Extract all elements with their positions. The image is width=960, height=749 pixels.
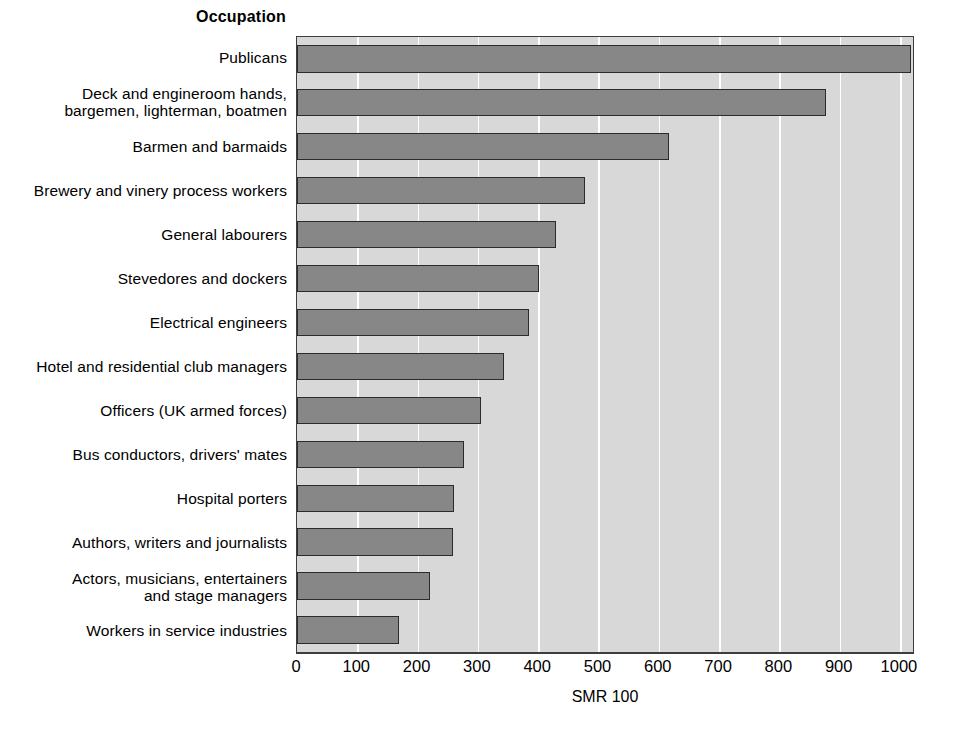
x-axis-tick-labels: 01002003004005006007008009001000 [296, 657, 914, 683]
bar [297, 353, 504, 380]
bar [297, 45, 911, 72]
category-label: General labourers [0, 212, 296, 256]
x-tick-label: 700 [704, 657, 732, 676]
x-axis-line [296, 652, 914, 654]
category-label: Actors, musicians, entertainers and stag… [0, 565, 296, 609]
bar-row [297, 37, 913, 81]
category-label: Brewery and vinery process workers [0, 168, 296, 212]
x-tick-label: 1000 [881, 657, 918, 676]
bar-row [297, 301, 913, 345]
bar-row [297, 344, 913, 388]
bar [297, 133, 669, 160]
category-label: Electrical engineers [0, 300, 296, 344]
bar [297, 397, 481, 424]
bar [297, 177, 585, 204]
bar [297, 616, 399, 643]
bar-series [297, 37, 913, 652]
bar-row [297, 257, 913, 301]
bar-row [297, 564, 913, 608]
category-label: Officers (UK armed forces) [0, 389, 296, 433]
x-tick-label: 0 [291, 657, 300, 676]
x-tick-label: 600 [644, 657, 672, 676]
bar-row [297, 213, 913, 257]
plot-area [296, 36, 914, 653]
bar [297, 265, 539, 292]
bar-row [297, 169, 913, 213]
bar-row [297, 125, 913, 169]
x-tick-label: 500 [584, 657, 612, 676]
category-label: Publicans [0, 36, 296, 80]
category-label: Bus conductors, drivers' mates [0, 433, 296, 477]
bar-row [297, 81, 913, 125]
bar [297, 572, 430, 599]
x-tick-label: 800 [765, 657, 793, 676]
x-tick-label: 400 [523, 657, 551, 676]
bar [297, 89, 826, 116]
x-tick-label: 100 [343, 657, 371, 676]
bar-row [297, 388, 913, 432]
x-axis-label: SMR 100 [296, 688, 914, 706]
bar-row [297, 520, 913, 564]
x-tick-label: 200 [403, 657, 431, 676]
category-label: Workers in service industries [0, 609, 296, 653]
bar-row [297, 432, 913, 476]
category-label: Stevedores and dockers [0, 256, 296, 300]
bar [297, 528, 453, 555]
category-axis-title: Occupation [0, 8, 296, 26]
x-tick-label: 900 [825, 657, 853, 676]
bar [297, 221, 556, 248]
bar-row [297, 476, 913, 520]
bar [297, 441, 464, 468]
category-label: Barmen and barmaids [0, 124, 296, 168]
bar [297, 485, 454, 512]
category-label: Deck and engineroom hands, bargemen, lig… [0, 80, 296, 124]
bar-row [297, 608, 913, 652]
chart-figure: Occupation PublicansDeck and engineroom … [0, 0, 960, 749]
bar [297, 309, 529, 336]
category-label-column: PublicansDeck and engineroom hands, barg… [0, 36, 296, 653]
x-tick-label: 300 [463, 657, 491, 676]
category-label: Authors, writers and journalists [0, 521, 296, 565]
category-label: Hotel and residential club managers [0, 345, 296, 389]
category-label: Hospital porters [0, 477, 296, 521]
